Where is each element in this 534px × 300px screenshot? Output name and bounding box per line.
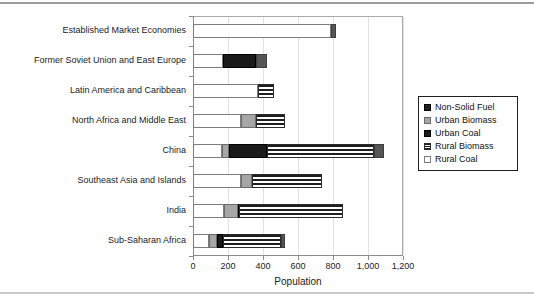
gridline xyxy=(298,17,299,255)
x-axis-title: Population xyxy=(193,276,403,287)
legend-swatch-icon xyxy=(424,130,431,137)
bar-7[interactable] xyxy=(193,234,403,248)
legend-label: Urban Coal xyxy=(435,127,481,140)
y-tick xyxy=(189,226,193,227)
bar-segment[interactable] xyxy=(209,234,217,248)
bar-segment[interactable] xyxy=(252,174,322,188)
x-tick xyxy=(193,256,194,260)
bar-segment[interactable] xyxy=(256,114,285,128)
category-label-0: Established Market Economies xyxy=(0,25,194,35)
bar-4[interactable] xyxy=(193,144,403,158)
top-divider xyxy=(0,2,534,4)
y-tick xyxy=(189,106,193,107)
x-tick xyxy=(403,256,404,260)
bar-5[interactable] xyxy=(193,174,403,188)
category-label-4: China xyxy=(0,145,194,155)
gridline xyxy=(263,17,264,255)
bar-segment[interactable] xyxy=(193,204,224,218)
bar-segment[interactable] xyxy=(331,24,335,38)
legend-label: Non-Solid Fuel xyxy=(435,101,495,114)
gridline xyxy=(368,17,369,255)
category-label-6: India xyxy=(0,205,194,215)
bar-segment[interactable] xyxy=(193,54,223,68)
x-tick xyxy=(263,256,264,260)
category-label-5: Southeast Asia and Islands xyxy=(0,175,194,185)
bar-3[interactable] xyxy=(193,114,403,128)
x-tick xyxy=(228,256,229,260)
legend-item-1[interactable]: Urban Biomass xyxy=(424,114,512,127)
bar-segment[interactable] xyxy=(223,234,281,248)
x-tick-label: 1,200 xyxy=(373,261,433,271)
legend-label: Rural Biomass xyxy=(435,140,494,153)
gridline xyxy=(228,17,229,255)
bottom-divider xyxy=(0,292,534,294)
bar-segment[interactable] xyxy=(241,174,252,188)
y-tick xyxy=(189,166,193,167)
bar-segment[interactable] xyxy=(193,24,331,38)
y-tick xyxy=(189,76,193,77)
legend: Non-Solid FuelUrban BiomassUrban CoalRur… xyxy=(418,96,518,171)
y-tick xyxy=(189,16,193,17)
chart-area: 02004006008001,0001,200 Population Estab… xyxy=(0,8,534,292)
y-tick xyxy=(189,136,193,137)
legend-label: Rural Coal xyxy=(435,153,478,166)
legend-item-2[interactable]: Urban Coal xyxy=(424,127,512,140)
legend-swatch-icon xyxy=(424,143,431,150)
category-label-3: North Africa and Middle East xyxy=(0,115,194,125)
bar-segment[interactable] xyxy=(224,204,238,218)
category-label-1: Former Soviet Union and East Europe xyxy=(0,55,194,65)
chart-root: 02004006008001,0001,200 Population Estab… xyxy=(0,0,534,300)
gridline xyxy=(403,17,404,255)
bar-segment[interactable] xyxy=(229,144,268,158)
category-label-2: Latin America and Caribbean xyxy=(0,85,194,95)
legend-swatch-icon xyxy=(424,156,431,163)
x-tick xyxy=(368,256,369,260)
legend-label: Urban Biomass xyxy=(435,114,497,127)
bar-segment[interactable] xyxy=(193,144,222,158)
bar-segment[interactable] xyxy=(258,84,274,98)
y-tick xyxy=(189,46,193,47)
legend-item-0[interactable]: Non-Solid Fuel xyxy=(424,101,512,114)
bar-segment[interactable] xyxy=(223,54,256,68)
bar-segment[interactable] xyxy=(193,234,209,248)
x-tick xyxy=(333,256,334,260)
legend-item-3[interactable]: Rural Biomass xyxy=(424,140,512,153)
bar-segment[interactable] xyxy=(256,54,267,68)
bar-1[interactable] xyxy=(193,54,403,68)
bar-segment[interactable] xyxy=(241,114,256,128)
bar-segment[interactable] xyxy=(193,114,241,128)
bar-segment[interactable] xyxy=(193,174,241,188)
x-tick xyxy=(298,256,299,260)
gridline xyxy=(333,17,334,255)
y-tick xyxy=(189,256,193,257)
legend-item-4[interactable]: Rural Coal xyxy=(424,153,512,166)
legend-rows: Non-Solid FuelUrban BiomassUrban CoalRur… xyxy=(424,101,512,166)
y-axis-line xyxy=(193,16,194,256)
bar-segment[interactable] xyxy=(374,144,384,158)
legend-swatch-icon xyxy=(424,117,431,124)
category-label-7: Sub-Saharan Africa xyxy=(0,235,194,245)
bar-segment[interactable] xyxy=(193,84,258,98)
bar-6[interactable] xyxy=(193,204,403,218)
bar-segment[interactable] xyxy=(222,144,229,158)
legend-swatch-icon xyxy=(424,104,431,111)
bar-0[interactable] xyxy=(193,24,403,38)
bar-2[interactable] xyxy=(193,84,403,98)
bar-segment[interactable] xyxy=(267,144,374,158)
y-tick xyxy=(189,196,193,197)
bar-segment[interactable] xyxy=(239,204,342,218)
bar-segment[interactable] xyxy=(281,234,285,248)
